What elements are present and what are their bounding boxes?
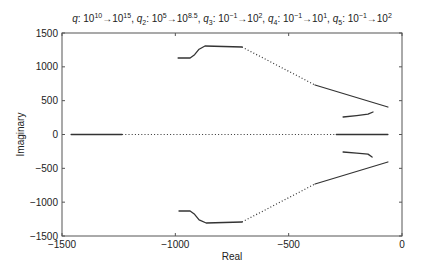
- y-axis-label: Imaginary: [15, 113, 26, 157]
- x-axis-label: Real: [222, 251, 243, 262]
- plot-series: [71, 46, 388, 223]
- solid-segment: [343, 152, 372, 157]
- upper-small-branch: [343, 112, 373, 117]
- y-tick-label: 1000: [36, 61, 59, 72]
- y-tick-label: −500: [35, 163, 58, 174]
- solid-segment: [343, 112, 373, 117]
- title-text: q: 1010→1015, q2: 105→108.5, q3: 10−1→10…: [72, 12, 392, 26]
- x-tick-label: −500: [277, 239, 300, 250]
- solid-segment: [315, 85, 388, 107]
- root-locus-chart: q: 1010→1015, q2: 105→108.5, q3: 10−1→10…: [0, 0, 421, 274]
- solid-segment: [315, 162, 388, 184]
- lower-main-branch: [179, 162, 388, 223]
- x-tick-label: −1000: [161, 239, 190, 250]
- lower-small-branch: [343, 152, 372, 157]
- y-tick-label: 0: [52, 129, 58, 140]
- upper-main-branch: [178, 46, 388, 107]
- solid-segment: [178, 46, 242, 58]
- x-tick-label: 0: [399, 239, 405, 250]
- dotted-segment: [242, 47, 315, 85]
- axis-ticks: −1500−1000−5000150010005000−500−1000−150…: [30, 28, 405, 251]
- y-tick-label: 1500: [36, 28, 59, 39]
- y-tick-label: −1500: [30, 231, 59, 242]
- dotted-segment: [242, 184, 315, 222]
- solid-segment: [179, 211, 242, 223]
- chart-title: q: 1010→1015, q2: 105→108.5, q3: 10−1→10…: [72, 12, 392, 26]
- y-tick-label: 500: [41, 95, 58, 106]
- y-tick-label: −1000: [30, 197, 59, 208]
